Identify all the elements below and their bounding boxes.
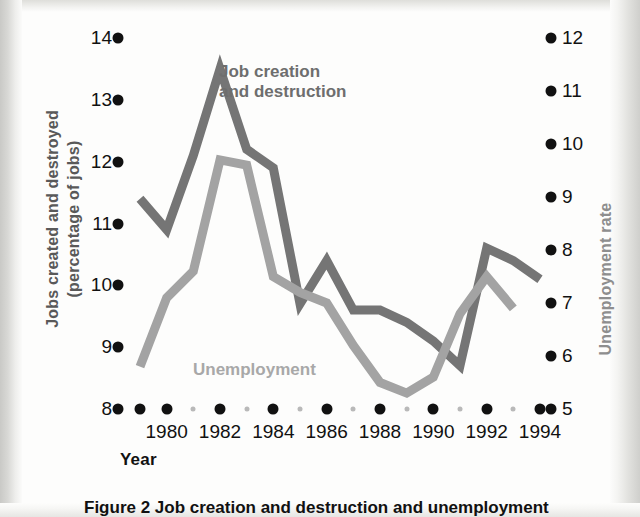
y-axis-left-tick-dot [113, 404, 124, 415]
x-axis-minor-dot [511, 407, 516, 412]
y-axis-right-tick-label: 6 [562, 345, 573, 367]
y-axis-left-tick-dot [113, 280, 124, 291]
y-axis-left-tick-dot [113, 342, 124, 353]
y-axis-right-tick-dot [546, 298, 557, 309]
y-axis-right-tick-label: 9 [562, 186, 573, 208]
x-axis-tick-dot [161, 404, 172, 415]
chart-plot-area: 141312111098 12111098765 198019821984198… [0, 0, 640, 517]
x-axis-tick-dot [481, 404, 492, 415]
y-axis-right-tick-dot [546, 245, 557, 256]
x-axis-tick-label: 1992 [466, 421, 508, 443]
x-axis-minor-dot [244, 407, 249, 412]
y-axis-right-tick-dot [546, 404, 557, 415]
x-axis-tick-dot [375, 404, 386, 415]
y-axis-right-tick-dot [546, 33, 557, 44]
y-axis-left-tick-label: 11 [82, 213, 112, 235]
x-axis-tick-label: 1986 [306, 421, 348, 443]
y-axis-right-tick-label: 7 [562, 292, 573, 314]
y-axis-left-tick-dot [113, 156, 124, 167]
x-axis-tick-label: 1982 [199, 421, 241, 443]
x-axis-tick-dot [215, 404, 226, 415]
y-axis-right-tick-label: 11 [562, 80, 582, 102]
y-axis-left-tick-dot [113, 218, 124, 229]
y-axis-right-tick-label: 12 [562, 27, 583, 49]
x-axis-minor-dot [298, 407, 303, 412]
series-label-unemployment: Unemployment [193, 360, 316, 380]
y-axis-right-title: Unemployment rate [597, 154, 615, 404]
x-axis-tick-label: 1984 [252, 421, 294, 443]
x-axis-title: Year [120, 450, 157, 470]
x-axis-minor-dot [458, 407, 463, 412]
y-axis-right-tick-label: 8 [562, 239, 573, 261]
y-axis-left-tick-label: 12 [82, 151, 112, 173]
x-axis-tick-dot [268, 404, 279, 415]
y-axis-right-tick-dot [546, 139, 557, 150]
y-axis-right-tick-label: 5 [562, 398, 573, 420]
y-axis-left-tick-dot [113, 33, 124, 44]
x-axis-minor-dot [404, 407, 409, 412]
x-axis-minor-dot [351, 407, 356, 412]
y-axis-left-tick-label: 9 [82, 336, 112, 358]
y-axis-left-tick-label: 13 [82, 89, 112, 111]
x-axis-tick-label: 1994 [519, 421, 561, 443]
figure-caption: Figure 2 Job creation and destruction an… [84, 498, 549, 517]
y-axis-right-tick-dot [546, 86, 557, 97]
y-axis-left-tick-label: 14 [82, 27, 112, 49]
y-axis-left-title: Jobs created and destroyed (percentage o… [42, 94, 84, 344]
x-axis-tick-label: 1990 [412, 421, 454, 443]
x-axis-minor-dot [191, 407, 196, 412]
x-axis-tick-label: 1988 [359, 421, 401, 443]
x-axis-tick-label: 1980 [146, 421, 188, 443]
y-axis-right-tick-dot [546, 351, 557, 362]
figure-page: 141312111098 12111098765 198019821984198… [0, 0, 640, 517]
y-axis-left-tick-dot [113, 94, 124, 105]
y-axis-left-tick-label: 8 [82, 398, 112, 420]
x-axis-tick-dot [535, 404, 546, 415]
y-axis-right-tick-dot [546, 192, 557, 203]
series-label-job-creation: Job creation and destruction [219, 62, 347, 102]
y-axis-left-tick-label: 10 [82, 274, 112, 296]
y-axis-right-tick-label: 10 [562, 133, 583, 155]
x-axis-tick-dot [428, 404, 439, 415]
x-axis-tick-dot [321, 404, 332, 415]
x-axis-tick-dot [135, 404, 146, 415]
